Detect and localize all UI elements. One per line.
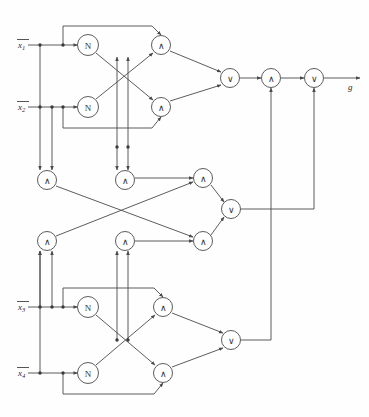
input-terminal-x2: x2 [17,102,29,114]
junction-dot [115,145,118,148]
wire-andmidA-to-andmidF [56,186,193,237]
junction-dot [115,338,118,341]
gate-and-mid-f: ∧ [194,232,213,251]
input-label-x3: x3 [17,302,26,313]
gate-or-mid: ∨ [222,200,241,219]
wire-andtop1-to-ortop [170,51,221,72]
gate-symbol: ∨ [228,336,235,346]
gate-n-bot-1: N [78,297,99,318]
wire-andmidD-to-andmidC [56,182,193,236]
gate-symbol: ∧ [158,41,165,51]
junction-dot [61,105,64,108]
input-label-x4: x4 [17,368,26,379]
gate-and-mid-a: ∧ [38,171,57,190]
wire-andtop2-to-ortop [170,85,221,101]
wire-orbot-right-up [241,88,271,340]
gate-and-mid-c: ∧ [194,169,213,188]
wire-andbot1-to-orbot [172,313,223,333]
junction-dot [126,145,129,148]
junction-dot [50,305,53,308]
gate-and-bot-1: ∧ [154,298,173,317]
input-label-x1: x1 [17,40,25,51]
gate-symbol: ∧ [160,303,167,313]
gate-and-out: ∧ [262,69,281,88]
gate-n-top-2: N [78,97,99,118]
circuit-diagram-canvas: NN∧∧∨∧∨∧∧∧∨∧∧∧NN∧∧∨ x1x2x3x4g [0,0,369,417]
gate-symbol: ∧ [200,237,207,247]
output-label-g: g [348,82,353,92]
gate-symbol: ∧ [160,369,167,379]
gate-symbol: ∧ [44,176,51,186]
gate-symbol: ∧ [200,174,207,184]
junction-dot [61,371,64,374]
wire-andmidF-to-ormid [211,217,224,235]
gate-symbol: ∨ [311,74,318,84]
junction-dot [38,105,41,108]
gate-and-mid-b: ∧ [116,171,135,190]
gate-and-top-1: ∧ [152,36,171,55]
junction-dot [38,371,41,374]
gate-symbol: ∨ [227,74,234,84]
junction-dot [50,105,53,108]
logic-circuit-svg: NN∧∧∨∧∨∧∧∧∨∧∧∧NN∧∧∨ x1x2x3x4g [0,0,369,417]
wire-andmidC-to-ormid [211,185,224,202]
gate-and-mid-d: ∧ [38,232,57,251]
gate-n-top-1: N [78,35,99,56]
gate-symbol: N [85,369,92,379]
gate-symbol: N [85,41,92,51]
junction-dots-layer [38,43,129,374]
junction-dot [126,338,129,341]
input-terminal-x4: x4 [17,368,29,380]
gate-symbol: ∧ [122,237,129,247]
junction-dot [61,305,64,308]
input-terminal-x1: x1 [17,40,29,52]
wire-ormid-right-up [241,88,314,209]
input-label-x2: x2 [17,102,26,113]
gate-symbol: ∧ [268,74,275,84]
gate-symbol: N [85,303,92,313]
gate-and-mid-e: ∧ [116,232,135,251]
gate-or-out: ∨ [305,69,324,88]
wire-andbot2-to-orbot [172,348,223,367]
gate-and-bot-2: ∧ [154,364,173,383]
gate-n-bot-2: N [78,363,99,384]
gate-or-top: ∨ [221,69,240,88]
junction-dot [61,43,64,46]
input-terminal-x3: x3 [17,302,29,314]
gate-symbol: ∨ [228,205,235,215]
gate-symbol: ∧ [122,176,129,186]
junction-dot [38,305,41,308]
gate-symbol: N [85,103,92,113]
gate-symbol: ∧ [158,103,165,113]
gate-and-top-2: ∧ [152,98,171,117]
junction-dot [38,43,41,46]
gate-symbol: ∧ [44,237,51,247]
gate-or-bot: ∨ [222,331,241,350]
